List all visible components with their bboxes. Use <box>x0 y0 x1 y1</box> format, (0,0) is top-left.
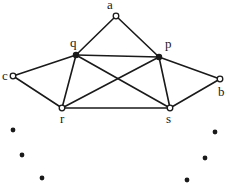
graph-diagram: aqpcbrs <box>0 0 229 192</box>
node-label-r: r <box>60 111 65 126</box>
node-p <box>156 54 161 59</box>
node-b <box>217 76 223 82</box>
ellipsis-dot-left-1 <box>11 128 16 133</box>
ellipsis-dot-right-1 <box>213 130 218 135</box>
edge-a-q <box>76 16 116 55</box>
edge-q-c <box>13 55 76 76</box>
ellipsis-dot-left-3 <box>40 176 45 181</box>
node-label-p: p <box>165 36 172 51</box>
node-r <box>59 105 65 111</box>
node-label-q: q <box>70 35 77 50</box>
ellipsis-dot-right-2 <box>203 156 208 161</box>
node-q <box>73 52 78 57</box>
edge-p-r <box>62 57 159 108</box>
edge-a-p <box>116 16 159 57</box>
ellipsis-dot-left-2 <box>20 153 25 158</box>
edge-c-r <box>13 76 62 108</box>
edges-group <box>13 16 220 108</box>
node-label-b: b <box>218 84 225 99</box>
node-label-s: s <box>166 111 171 126</box>
edge-q-p <box>76 55 159 57</box>
node-s <box>167 105 173 111</box>
edge-q-r <box>62 55 76 108</box>
ellipsis-dot-right-3 <box>185 178 190 183</box>
edge-b-s <box>170 79 220 108</box>
node-label-a: a <box>107 0 113 12</box>
node-label-c: c <box>2 68 8 83</box>
node-a <box>113 13 119 19</box>
node-c <box>10 73 16 79</box>
ellipsis-dots-group <box>11 128 218 183</box>
edge-p-b <box>159 57 220 79</box>
edge-p-s <box>159 57 170 108</box>
edge-q-s <box>76 55 170 108</box>
